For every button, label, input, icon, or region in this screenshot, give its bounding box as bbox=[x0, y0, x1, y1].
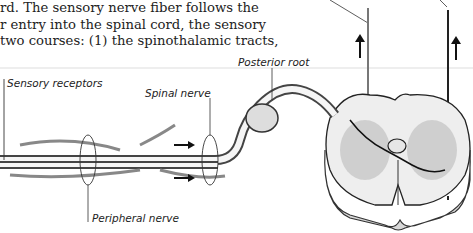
label-sensory-receptors: Sensory receptors bbox=[7, 77, 103, 89]
label-peripheral-nerve: Peripheral nerve bbox=[92, 212, 179, 224]
nerve-icon bbox=[0, 89, 335, 177]
label-spinal-nerve: Spinal nerve bbox=[145, 87, 211, 99]
spinal-cord-icon bbox=[325, 94, 471, 230]
label-posterior-root: Posterior root bbox=[238, 56, 309, 68]
spinal-cord-diagram bbox=[0, 0, 473, 233]
